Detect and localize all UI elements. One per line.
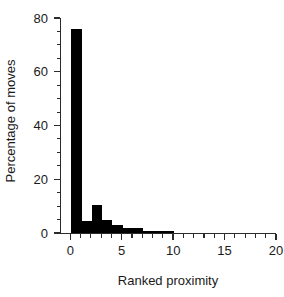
y-axis-minor-tick [57,206,61,207]
y-axis-minor-tick [57,192,61,193]
y-axis-tick-label: 20 [34,173,48,186]
y-axis-major-tick [54,125,60,126]
y-axis-tick-label: 40 [34,119,48,132]
y-axis-minor-tick [57,44,61,45]
x-axis-minor-tick [111,234,112,238]
bar [143,231,153,233]
y-axis-tick-label: 80 [34,12,48,25]
x-axis-minor-tick [80,234,81,238]
y-axis-minor-tick [57,152,61,153]
y-axis-minor-tick [57,138,61,139]
bar [133,228,143,233]
x-axis-tick-label: 20 [269,244,283,257]
x-axis-minor-tick [265,234,266,238]
y-axis-minor-tick [57,31,61,32]
bar [112,225,122,233]
x-axis-title: Ranked proximity [60,273,276,288]
x-axis-tick-label: 0 [67,244,74,257]
x-axis-major-tick [224,234,225,240]
y-axis-minor-tick [57,98,61,99]
x-axis-minor-tick [245,234,246,238]
y-axis-minor-tick [57,58,61,59]
bar [71,29,81,233]
bar [102,220,112,233]
x-axis-minor-tick [131,234,132,238]
plot-area: 020406080 05101520 [60,18,276,233]
x-axis-minor-tick [203,234,204,238]
bar [123,228,133,233]
x-axis-major-tick [70,234,71,240]
bar [154,231,164,233]
x-axis-ticks-and-labels: 05101520 [60,234,276,242]
x-axis-minor-tick [152,234,153,238]
y-axis-title-text: Percentage of moves [3,60,18,183]
x-axis-tick-label: 5 [118,244,125,257]
x-axis-minor-tick [142,234,143,238]
y-axis-tick-label: 0 [41,227,48,240]
y-axis-major-tick [54,71,60,72]
x-axis-minor-tick [183,234,184,238]
y-axis-major-tick [54,17,60,18]
x-axis-minor-tick [255,234,256,238]
bar [82,221,92,233]
x-axis-minor-tick [101,234,102,238]
x-axis-minor-tick [90,234,91,238]
x-axis-minor-tick [162,234,163,238]
histogram-figure: Percentage of moves 020406080 05101520 R… [0,0,284,297]
bar [92,205,102,233]
x-axis-minor-tick [234,234,235,238]
y-axis-title: Percentage of moves [1,10,19,232]
x-axis-major-tick [172,234,173,240]
x-axis-minor-tick [193,234,194,238]
bar [164,231,174,233]
y-axis-minor-tick [57,85,61,86]
y-axis-minor-tick [57,219,61,220]
x-axis-minor-tick [214,234,215,238]
bar-series [61,18,276,233]
y-axis-tick-label: 60 [34,65,48,78]
x-axis-tick-label: 10 [166,244,180,257]
x-axis-major-tick [121,234,122,240]
y-axis-major-tick [54,179,60,180]
x-axis-major-tick [275,234,276,240]
y-axis-minor-tick [57,165,61,166]
y-axis-minor-tick [57,112,61,113]
x-axis-tick-label: 15 [217,244,231,257]
